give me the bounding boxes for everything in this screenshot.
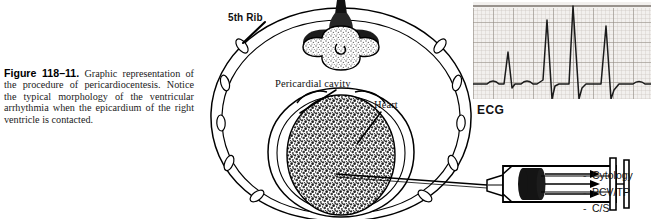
ecg-strip bbox=[473, 2, 651, 99]
label-5th-rib: 5th Rib bbox=[228, 12, 263, 23]
ecg-trace-svg bbox=[473, 2, 651, 99]
figure-number: Figure 118–11. bbox=[4, 67, 79, 79]
bullet-dash: - bbox=[583, 167, 592, 184]
heart bbox=[287, 95, 395, 215]
list-item: -PCV/TP bbox=[583, 184, 633, 201]
list-item-label: Cytology bbox=[592, 169, 633, 181]
list-item-label: C/S bbox=[592, 202, 610, 214]
bullet-dash: - bbox=[583, 184, 592, 201]
label-ecg: ECG bbox=[477, 103, 504, 117]
list-item-label: PCV/TP bbox=[592, 186, 630, 198]
figure-caption: Figure 118–11. Graphic representation of… bbox=[4, 68, 194, 125]
sample-analysis-list: -Cytology -PCV/TP -C/S bbox=[583, 167, 633, 217]
bullet-dash: - bbox=[583, 200, 592, 217]
list-item: -C/S bbox=[583, 200, 633, 217]
label-heart: Heart bbox=[374, 99, 398, 110]
list-item: -Cytology bbox=[583, 167, 633, 184]
label-pericardial-cavity: Pericardial cavity bbox=[275, 78, 351, 89]
figure-page: Figure 118–11. Graphic representation of… bbox=[0, 0, 653, 219]
